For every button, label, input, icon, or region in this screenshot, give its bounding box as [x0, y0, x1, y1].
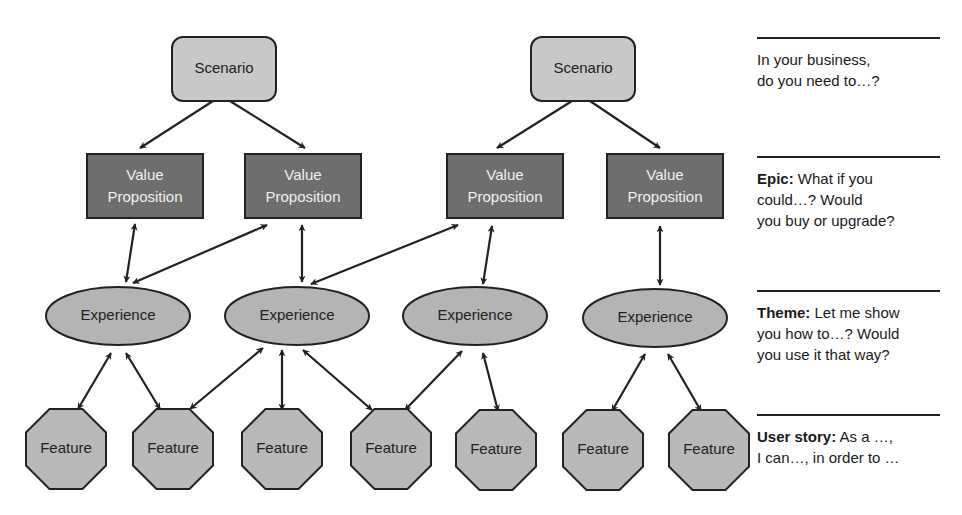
legend-text: As a …,: [840, 428, 893, 445]
legend-line: you how to…? Would: [757, 323, 942, 344]
legend-text: you use it that way?: [757, 346, 890, 363]
rect-shape: [447, 154, 563, 218]
arrow: [140, 101, 213, 148]
feature-node: Feature: [351, 409, 431, 489]
scenario-label: Scenario: [194, 59, 253, 76]
feature-label: Feature: [577, 440, 629, 457]
scenario-node: Scenario: [531, 37, 635, 101]
bidirectional-arrow: [190, 348, 263, 409]
bidirectional-arrow: [303, 350, 372, 410]
legend-entry: Epic: What if youcould…? Wouldyou buy or…: [757, 156, 942, 231]
feature-label: Feature: [40, 439, 92, 456]
nodes: ScenarioScenarioValuePropositionValuePro…: [26, 37, 749, 490]
experience-label: Experience: [80, 306, 155, 323]
feature-label: Feature: [683, 440, 735, 457]
divider: [757, 37, 940, 39]
rect-shape: [245, 154, 361, 218]
divider: [757, 414, 940, 416]
feature-node: Feature: [456, 410, 536, 490]
experience-label: Experience: [437, 306, 512, 323]
bidirectional-arrow: [126, 224, 135, 282]
legend-line: Theme: Let me show: [757, 302, 942, 323]
legend-entry: Theme: Let me showyou how to…? Wouldyou …: [757, 290, 942, 365]
legend-level-name: Epic:: [757, 170, 794, 187]
bidirectional-arrow: [483, 353, 498, 411]
legend-line: could…? Would: [757, 189, 942, 210]
value-proposition-label-line2: Proposition: [627, 188, 702, 205]
legend-level-name: Theme:: [757, 304, 810, 321]
legend-entry: In your business,do you need to…?: [757, 37, 942, 91]
feature-label: Feature: [365, 439, 417, 456]
legend-line: In your business,: [757, 49, 942, 70]
legend-entry: User story: As a …,I can…, in order to …: [757, 414, 942, 468]
feature-label: Feature: [470, 440, 522, 457]
legend-text: I can…, in order to …: [757, 449, 900, 466]
feature-node: Feature: [133, 409, 213, 489]
experience-node: Experience: [583, 289, 727, 347]
legend-text: you buy or upgrade?: [757, 212, 895, 229]
bidirectional-arrow: [311, 225, 458, 284]
feature-label: Feature: [147, 439, 199, 456]
experience-node: Experience: [46, 287, 190, 345]
legend-line: User story: As a …,: [757, 426, 942, 447]
experience-label: Experience: [617, 308, 692, 325]
legend-text: could…? Would: [757, 191, 863, 208]
arrow: [590, 101, 660, 148]
value-proposition-label-line1: Value: [284, 166, 321, 183]
bidirectional-arrow: [126, 353, 160, 409]
value-proposition-label-line1: Value: [646, 166, 683, 183]
legend-line: you buy or upgrade?: [757, 210, 942, 231]
value-proposition-label-line2: Proposition: [265, 188, 340, 205]
value-proposition-node: ValueProposition: [447, 154, 563, 218]
legend-text: do you need to…?: [757, 72, 880, 89]
legend-line: I can…, in order to …: [757, 447, 942, 468]
feature-label: Feature: [256, 439, 308, 456]
rect-shape: [87, 154, 203, 218]
value-proposition-node: ValueProposition: [245, 154, 361, 218]
legend-line: you use it that way?: [757, 344, 942, 365]
legend-text: Let me show: [815, 304, 900, 321]
scenario-label: Scenario: [553, 59, 612, 76]
value-proposition-label-line1: Value: [126, 166, 163, 183]
arrow: [230, 101, 305, 148]
bidirectional-arrow: [78, 353, 111, 409]
legend-line: Epic: What if you: [757, 168, 942, 189]
legend-line: do you need to…?: [757, 70, 942, 91]
bidirectional-arrow: [612, 354, 645, 411]
feature-node: Feature: [242, 409, 322, 489]
legend-text: What if you: [798, 170, 873, 187]
bidirectional-arrow: [483, 226, 492, 284]
feature-node: Feature: [563, 410, 643, 490]
value-proposition-label-line2: Proposition: [467, 188, 542, 205]
bidirectional-arrow: [133, 225, 267, 283]
rect-shape: [607, 154, 723, 218]
divider: [757, 156, 940, 158]
experience-label: Experience: [259, 306, 334, 323]
experience-node: Experience: [225, 287, 369, 345]
edges: [78, 101, 701, 411]
legend-text: you how to…? Would: [757, 325, 899, 342]
feature-node: Feature: [26, 409, 106, 489]
value-proposition-node: ValueProposition: [607, 154, 723, 218]
bidirectional-arrow: [668, 354, 701, 411]
arrow: [497, 101, 572, 148]
experience-node: Experience: [403, 287, 547, 345]
value-proposition-label-line1: Value: [486, 166, 523, 183]
value-proposition-label-line2: Proposition: [107, 188, 182, 205]
scenario-node: Scenario: [172, 37, 276, 101]
bidirectional-arrow: [405, 351, 462, 410]
legend-text: In your business,: [757, 51, 870, 68]
legend-level-name: User story:: [757, 428, 836, 445]
feature-node: Feature: [669, 410, 749, 490]
value-proposition-node: ValueProposition: [87, 154, 203, 218]
divider: [757, 290, 940, 292]
